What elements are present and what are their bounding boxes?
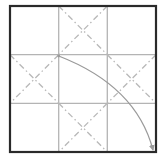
fold-diagram — [0, 0, 161, 167]
paper-square — [10, 6, 156, 152]
